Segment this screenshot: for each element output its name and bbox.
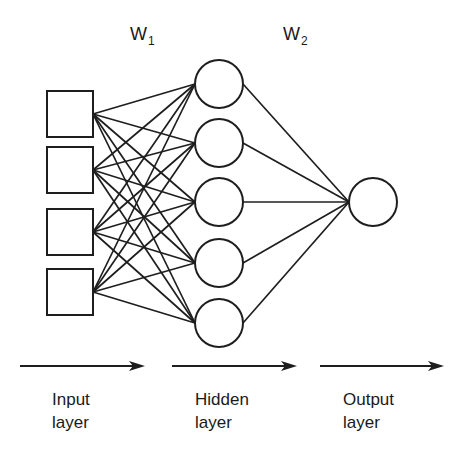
weight-symbol: W [283, 24, 300, 44]
hidden-node-h5 [195, 299, 243, 347]
edge-i1-h1 [93, 84, 195, 114]
input-layer-nodes [47, 91, 93, 315]
hidden-node-h1 [195, 60, 243, 108]
edge-i2-h3 [93, 170, 195, 202]
label-line-1: Output [343, 388, 394, 411]
hidden-to-output-edges [243, 84, 349, 323]
arrow-right-icon [172, 361, 297, 371]
weight-subscript: 2 [301, 34, 308, 48]
output-node-o1 [349, 178, 397, 226]
edge-h5-o1 [243, 202, 349, 323]
arrow-right-icon [320, 361, 444, 371]
label-line-2: layer [52, 411, 90, 434]
label-line-2: layer [343, 411, 394, 434]
input-node-i2 [47, 147, 93, 193]
weight-label-w1: W1 [130, 25, 155, 50]
label-line-1: Input [52, 388, 90, 411]
hidden-node-h4 [195, 239, 243, 287]
label-line-2: layer [195, 411, 249, 434]
edge-i4-h5 [93, 292, 195, 323]
weight-label-w2: W2 [283, 25, 308, 50]
output-layer-nodes [349, 178, 397, 226]
input-node-i4 [47, 269, 93, 315]
edge-h4-o1 [243, 202, 349, 263]
hidden-layer-nodes [195, 60, 243, 347]
weight-subscript: 1 [148, 34, 155, 48]
hidden-node-h3 [195, 178, 243, 226]
hidden-layer-label: Hidden layer [195, 388, 249, 434]
hidden-node-h2 [195, 119, 243, 167]
flow-arrows [20, 361, 444, 371]
edge-h2-o1 [243, 143, 349, 202]
arrow-right-icon [20, 361, 145, 371]
input-layer-label: Input layer [52, 388, 90, 434]
input-node-i3 [47, 209, 93, 255]
edge-h1-o1 [243, 84, 349, 202]
input-to-hidden-edges [93, 84, 195, 323]
edge-i1-h2 [93, 114, 195, 143]
output-layer-label: Output layer [343, 388, 394, 434]
weight-symbol: W [130, 24, 147, 44]
input-node-i1 [47, 91, 93, 137]
label-line-1: Hidden [195, 388, 249, 411]
